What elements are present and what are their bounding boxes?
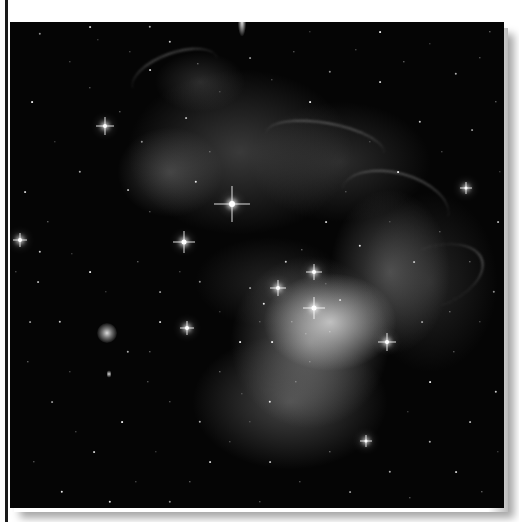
star [339, 299, 341, 301]
star [455, 471, 457, 473]
star [379, 81, 381, 83]
bright-star [312, 270, 316, 274]
star [249, 287, 251, 289]
bright-star [18, 238, 22, 242]
star [51, 401, 53, 403]
star [31, 101, 33, 103]
star [413, 261, 415, 263]
page [0, 0, 519, 522]
left-border-line [5, 0, 8, 522]
star [149, 69, 151, 71]
star [349, 491, 351, 493]
star [89, 271, 91, 273]
star [429, 381, 431, 383]
bright-streak-top [238, 22, 246, 36]
bright-star [385, 340, 389, 344]
bright-star [229, 201, 235, 207]
star [249, 57, 251, 59]
galaxy [97, 323, 117, 343]
star [239, 341, 241, 343]
star [325, 221, 327, 223]
star [29, 321, 31, 323]
star [471, 129, 473, 131]
bright-star [312, 306, 317, 311]
star [159, 321, 161, 323]
galaxy [107, 370, 111, 379]
star [159, 291, 161, 293]
star [469, 421, 471, 423]
star [121, 421, 123, 423]
star [379, 31, 381, 33]
bright-star [185, 326, 189, 330]
star [309, 101, 311, 103]
bright-star [365, 440, 368, 443]
star [497, 221, 499, 223]
bright-star [182, 240, 187, 245]
star [209, 461, 211, 463]
nebula-photograph [10, 22, 504, 508]
star [421, 321, 423, 323]
star [37, 281, 39, 283]
star [269, 461, 271, 463]
star [127, 189, 129, 191]
bright-star [103, 124, 107, 128]
bright-star [276, 286, 280, 290]
star [397, 171, 399, 173]
star [93, 451, 95, 453]
star [89, 26, 91, 28]
star [24, 191, 26, 193]
star [271, 341, 273, 343]
bright-star [465, 187, 468, 190]
star [185, 117, 187, 119]
